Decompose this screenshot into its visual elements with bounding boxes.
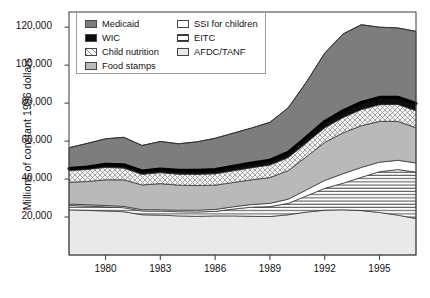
- legend-item-label: Medicaid: [102, 19, 139, 29]
- food-stamps-swatch: [85, 62, 97, 70]
- afdc-tanf-swatch: [177, 48, 189, 56]
- legend-item-child-nutrition[interactable]: Child nutrition: [85, 47, 159, 57]
- x-tick-label: 1989: [250, 263, 290, 274]
- legend-item-eitc[interactable]: EITC: [177, 33, 215, 43]
- legend-item-wic[interactable]: WIC: [85, 33, 120, 43]
- x-tick-label: 1986: [195, 263, 235, 274]
- legend-item-label: WIC: [102, 33, 120, 43]
- wic-swatch: [85, 34, 97, 42]
- x-tick-label: 1980: [86, 263, 126, 274]
- legend-item-label: EITC: [194, 33, 215, 43]
- legend-item-medicaid[interactable]: Medicaid: [85, 19, 139, 29]
- x-tick-label: 1995: [359, 263, 399, 274]
- legend-item-label: Child nutrition: [102, 47, 159, 57]
- legend-item-label: SSI for children: [194, 19, 258, 29]
- medicaid-swatch: [85, 20, 97, 28]
- legend-item-label: Food stamps: [102, 61, 156, 71]
- x-tick-label: 1992: [305, 263, 345, 274]
- ssi-swatch: [177, 20, 189, 28]
- legend-item-afdc-tanf[interactable]: AFDC/TANF: [177, 47, 245, 57]
- legend-item-ssi-for-children[interactable]: SSI for children: [177, 19, 258, 29]
- child-nutrition-swatch: [85, 48, 97, 56]
- legend-item-food-stamps[interactable]: Food stamps: [85, 61, 156, 71]
- x-tick-label: 1983: [140, 263, 180, 274]
- eitc-swatch: [177, 34, 189, 42]
- chart-legend: MedicaidWICChild nutritionFood stampsSSI…: [76, 12, 266, 74]
- legend-item-label: AFDC/TANF: [194, 47, 245, 57]
- stacked-area-chart-figure: Millions of constant 1996 dollars 20,000…: [0, 0, 430, 298]
